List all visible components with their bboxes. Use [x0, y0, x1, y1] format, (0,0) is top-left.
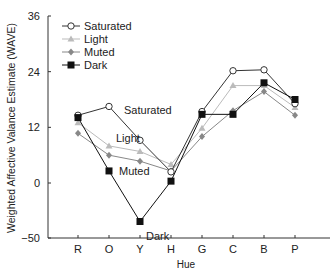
legend-label: Dark — [84, 59, 108, 71]
annotation-muted: Muted — [119, 165, 150, 177]
x-tick-label: P — [291, 243, 298, 255]
annotation-dark: Dark — [146, 230, 170, 242]
diamond-marker — [75, 130, 81, 137]
square-marker — [137, 218, 144, 225]
legend-item-dark: Dark — [62, 59, 108, 71]
square-marker — [75, 114, 82, 121]
y-tick-label: 36 — [28, 10, 40, 22]
annotation-light: Light — [116, 132, 140, 144]
legend: SaturatedLightMutedDark — [62, 20, 132, 71]
square-marker — [292, 96, 299, 103]
square-marker — [68, 62, 75, 69]
circle-marker — [106, 103, 112, 109]
square-marker — [230, 111, 237, 118]
line-chart: −500122436ROYHGCBPHue Weighted Affective… — [0, 0, 333, 277]
x-tick-label: B — [260, 243, 267, 255]
square-marker — [168, 178, 175, 185]
circle-marker — [168, 169, 174, 175]
series-dark — [75, 79, 299, 225]
y-tick-label: 24 — [28, 66, 40, 78]
x-tick-label: H — [167, 243, 175, 255]
square-marker — [106, 167, 113, 174]
y-axis-label: Weighted Affective Valance Estimate (WAV… — [5, 23, 17, 233]
diamond-marker — [292, 112, 298, 119]
x-tick-label: R — [74, 243, 82, 255]
x-tick-label: G — [198, 243, 207, 255]
diamond-marker — [137, 158, 143, 165]
series-line — [78, 86, 295, 165]
series-group — [75, 67, 299, 225]
circle-marker — [261, 67, 267, 73]
y-tick-label: 12 — [28, 121, 40, 133]
legend-item-muted: Muted — [62, 46, 115, 58]
square-marker — [261, 79, 268, 86]
axes: −500122436ROYHGCBPHue — [21, 10, 330, 270]
y-tick-label: −50 — [21, 232, 40, 244]
x-axis-label: Hue — [177, 259, 196, 270]
legend-label: Saturated — [84, 20, 132, 32]
legend-item-saturated: Saturated — [62, 20, 132, 32]
triangle-marker — [106, 142, 113, 148]
legend-label: Muted — [84, 46, 115, 58]
x-tick-label: O — [105, 243, 114, 255]
series-muted — [75, 88, 298, 174]
legend-item-light: Light — [62, 33, 108, 45]
x-tick-label: Y — [136, 243, 144, 255]
y-tick-label: 0 — [34, 177, 40, 189]
square-marker — [199, 111, 206, 118]
annotation-saturated: Saturated — [124, 104, 172, 116]
diamond-marker — [261, 88, 267, 95]
svg-text:Weighted Affective Valance Est: Weighted Affective Valance Estimate (WAV… — [5, 23, 17, 233]
annotations: SaturatedLightMutedDark — [116, 104, 172, 242]
diamond-marker — [68, 49, 74, 56]
circle-marker — [68, 23, 74, 29]
diamond-marker — [106, 152, 112, 159]
legend-label: Light — [84, 33, 108, 45]
circle-marker — [230, 68, 236, 74]
x-tick-label: C — [229, 243, 237, 255]
